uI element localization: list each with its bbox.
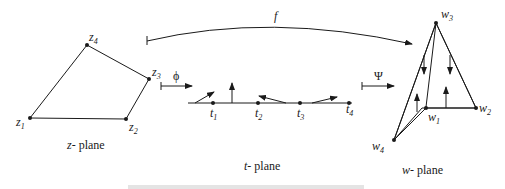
caption-glyph-band <box>128 185 364 189</box>
z1-label: z1 <box>15 115 25 131</box>
w3-label: w3 <box>441 7 453 23</box>
w-edge-w4-w1 <box>394 108 426 140</box>
t1-point <box>211 101 215 105</box>
z-plane-label: z- plane <box>66 138 105 152</box>
t2-label: t2 <box>255 106 262 122</box>
z-plane: z1 z2 z3 z4 z- plane <box>15 30 161 152</box>
map-f-arc <box>147 27 412 44</box>
t1-label: t1 <box>210 106 217 122</box>
t-tangent-arrow-3 <box>259 96 286 103</box>
map-f-label: f <box>274 9 279 23</box>
t-plane-label: t- plane <box>244 159 280 173</box>
z3-label: z3 <box>151 65 161 81</box>
z3-vertex <box>147 77 151 81</box>
w4-label: w4 <box>372 139 384 155</box>
map-phi-label: ϕ <box>173 69 179 83</box>
z2-label: z2 <box>128 120 138 136</box>
z1-vertex <box>28 116 32 120</box>
w1-label: w1 <box>428 110 440 126</box>
w-plane: w1 w2 w3 w4 w- plane <box>372 7 491 177</box>
z2-vertex <box>124 117 128 121</box>
z-quadrilateral <box>30 45 149 119</box>
map-psi: Ψ <box>362 69 394 90</box>
t3-point <box>298 101 302 105</box>
map-f: f <box>147 9 412 45</box>
w-plane-label: w- plane <box>402 163 443 177</box>
w2-vertex <box>474 106 478 110</box>
t-tangent-arrow-4 <box>312 97 337 103</box>
w4-vertex <box>392 138 396 142</box>
w3-vertex <box>434 21 438 25</box>
map-psi-label: Ψ <box>374 69 383 83</box>
t2-point <box>256 101 260 105</box>
figure-caption <box>128 185 364 189</box>
w2-label: w2 <box>479 101 491 117</box>
t-plane: t1 t2 t3 t4 t- plane <box>188 83 353 173</box>
z4-label: z4 <box>88 30 98 46</box>
t-tangent-arrow-1 <box>195 92 214 103</box>
map-phi: ϕ <box>161 69 192 90</box>
w-edge-w2-w3 <box>436 23 476 108</box>
mapping-diagram: f z1 z2 z3 z4 z- plane ϕ t1 t2 t3 t4 t- <box>0 0 505 189</box>
t3-label: t3 <box>297 106 304 122</box>
